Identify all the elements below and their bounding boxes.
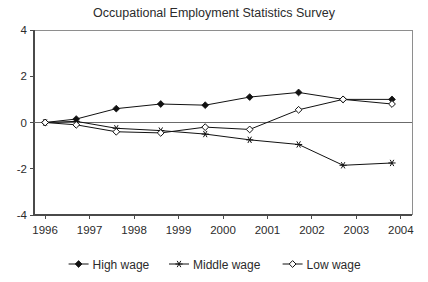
chart-figure: Occupational Employment Statistics Surve… <box>0 0 428 282</box>
chart-background <box>0 0 428 282</box>
y-tick-label: -2 <box>17 163 27 175</box>
y-tick-label: 4 <box>21 24 28 36</box>
x-tick-label: 1998 <box>121 224 147 236</box>
x-tick-label: 2001 <box>255 224 281 236</box>
x-tick-label: 2003 <box>344 224 370 236</box>
x-tick-label: 2000 <box>210 224 236 236</box>
y-tick-label: 0 <box>21 117 27 129</box>
legend-label: Low wage <box>307 258 361 272</box>
x-tick-label: 1999 <box>166 224 192 236</box>
x-tick-label: 1997 <box>77 224 103 236</box>
y-tick-label: 2 <box>21 70 27 82</box>
x-tick-label: 1996 <box>32 224 58 236</box>
y-tick-label: -4 <box>17 209 28 221</box>
chart-legend: High wageMiddle wageLow wage <box>69 258 361 272</box>
chart-title: Occupational Employment Statistics Surve… <box>93 6 336 20</box>
legend-label: Middle wage <box>193 258 261 272</box>
legend-label: High wage <box>93 258 150 272</box>
x-tick-label: 2002 <box>299 224 325 236</box>
x-tick-label: 2004 <box>388 224 414 236</box>
